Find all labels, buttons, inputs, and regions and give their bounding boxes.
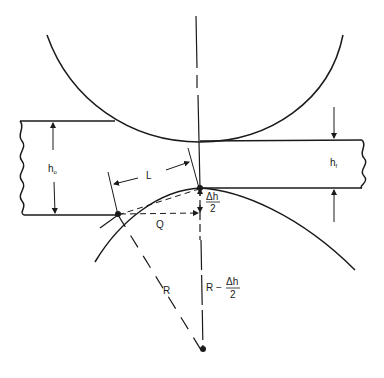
dh-denominator: 2 <box>210 203 216 214</box>
dh-numerator: Δh <box>206 191 218 202</box>
Q-dashed <box>120 213 198 214</box>
h0-label: ho <box>48 163 58 175</box>
hf-label: hf <box>330 157 338 169</box>
L-arrow-right <box>166 162 189 170</box>
Q-label: Q <box>156 219 164 230</box>
bottom-roll-arc <box>95 188 355 270</box>
centre-line-solid-r <box>201 240 203 350</box>
R-label: R <box>163 285 170 296</box>
h0-arrow-down <box>54 182 55 213</box>
chord-dashed <box>118 189 199 215</box>
entry-normal-line <box>100 215 118 228</box>
R-minus-label: R − <box>206 282 222 293</box>
R-minus-numerator: Δh <box>226 276 238 287</box>
rolling-diagram: ho hf L Q Δh 2 R R − Δh 2 <box>0 0 384 378</box>
L-extension-right <box>188 148 199 188</box>
R-minus-denominator: 2 <box>230 289 236 300</box>
L-extension-left <box>108 172 118 215</box>
strip-exit-top <box>200 140 362 141</box>
L-label: L <box>146 170 152 181</box>
radius-R-dashed <box>118 215 206 358</box>
contact-point-exit <box>197 185 203 191</box>
strip-exit-wavy-edge <box>361 140 366 188</box>
strip-entry-wavy-edge <box>20 121 24 215</box>
top-roll-arc <box>47 35 343 142</box>
L-arrow-left <box>114 178 138 184</box>
centre-line-top <box>196 16 197 68</box>
